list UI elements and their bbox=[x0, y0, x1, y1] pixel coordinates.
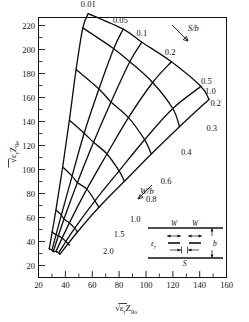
x-tick-label: 40 bbox=[61, 280, 70, 290]
curve-label-wb-0.6: 0.6 bbox=[161, 176, 172, 186]
inset-label-w-left: W bbox=[171, 219, 178, 228]
chart-background bbox=[0, 0, 249, 322]
y-tick-label: 120 bbox=[22, 141, 35, 151]
x-tick-label: 20 bbox=[34, 280, 43, 290]
x-tick-label: 100 bbox=[140, 280, 153, 290]
y-tick-label: 40 bbox=[27, 237, 36, 247]
x-tick-label: 80 bbox=[115, 280, 124, 290]
curve-label-wb-0.2: 0.2 bbox=[210, 98, 221, 108]
curve-label-wb-2.0: 2.0 bbox=[103, 246, 114, 256]
curve-label-wb-0.4: 0.4 bbox=[181, 147, 192, 157]
chart-svg: 220 200 180 160 140 120 100 80 60 40 20 bbox=[0, 0, 249, 322]
y-axis-z-sub: 0e bbox=[14, 141, 20, 147]
y-tick-label: 220 bbox=[22, 21, 35, 31]
y-tick-label: 100 bbox=[22, 165, 35, 175]
x-tick-label: 160 bbox=[220, 280, 233, 290]
y-tick-label: 180 bbox=[22, 69, 35, 79]
x-tick-label: 120 bbox=[167, 280, 180, 290]
y-tick-label: 60 bbox=[27, 213, 36, 223]
curve-label-wb-1.5: 1.5 bbox=[114, 229, 125, 239]
inset-label-s: S bbox=[183, 259, 187, 268]
curve-label-wb-1.0: 1.0 bbox=[130, 214, 141, 224]
curve-label-sb-1.0: 1.0 bbox=[205, 86, 216, 96]
y-tick-label: 200 bbox=[22, 45, 35, 55]
y-tick-label: 20 bbox=[27, 261, 36, 271]
y-tick-label: 160 bbox=[22, 93, 35, 103]
y-tick-label: 80 bbox=[27, 189, 36, 199]
curve-label-sb-0.01: 0.01 bbox=[81, 0, 96, 9]
inset-label-b: b bbox=[213, 239, 217, 248]
annotation-sb-label: S/b bbox=[188, 23, 199, 33]
x-tick-label: 60 bbox=[88, 280, 97, 290]
curve-label-sb-0.5: 0.5 bbox=[201, 76, 212, 86]
curve-label-sb-0.1: 0.1 bbox=[137, 28, 148, 38]
coupled-stripline-design-chart: 220 200 180 160 140 120 100 80 60 40 20 bbox=[0, 0, 249, 322]
x-axis-z-sub: 0o bbox=[131, 309, 137, 315]
curve-label-sb-0.05: 0.05 bbox=[113, 15, 128, 25]
inset-label-w-right: W bbox=[192, 219, 199, 228]
curve-label-wb-0.3: 0.3 bbox=[206, 123, 217, 133]
y-tick-label: 140 bbox=[22, 117, 35, 127]
curve-label-sb-0.2: 0.2 bbox=[165, 47, 176, 57]
x-tick-label: 140 bbox=[193, 280, 206, 290]
